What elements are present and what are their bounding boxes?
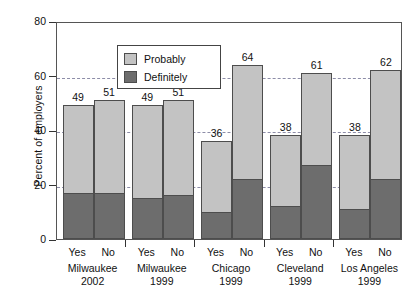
legend: Probably Definitely xyxy=(117,45,221,89)
bar-segment-definitely xyxy=(63,193,94,239)
bar-value-label: 61 xyxy=(301,59,332,71)
bar-group: 4951 xyxy=(63,23,125,239)
bar-series: 49514951366438613862 xyxy=(57,23,401,239)
bar-milwaukee-2002-yes xyxy=(63,105,94,239)
bar-segment-definitely xyxy=(339,209,370,239)
y-tick-label: 40 xyxy=(6,124,46,136)
bar-cleveland-1999-no xyxy=(301,73,332,239)
legend-label-definitely: Definitely xyxy=(144,71,187,83)
bar-value-label: 62 xyxy=(370,56,401,68)
bar-milwaukee-2002-no xyxy=(94,100,125,239)
bar-chart: Percent of employers 020406080 495149513… xyxy=(0,0,418,298)
y-tick-label: 0 xyxy=(6,233,46,245)
bar-chicago-1999-no xyxy=(232,65,263,239)
legend-item-definitely: Definitely xyxy=(124,69,214,85)
y-tick-mark xyxy=(49,131,56,132)
y-axis-title: Percent of employers xyxy=(32,36,44,236)
bar-segment-definitely xyxy=(94,193,125,239)
bar-segment-definitely xyxy=(370,179,401,239)
y-tick-mark xyxy=(49,240,56,241)
x-category-label: Los Angeles1999 xyxy=(324,246,414,287)
bar-segment-definitely xyxy=(132,198,163,239)
bar-segment-definitely xyxy=(163,195,194,239)
bar-milwaukee-1999-no xyxy=(163,100,194,239)
bar-los-angeles-1999-no xyxy=(370,70,401,239)
bar-value-label: 36 xyxy=(201,127,232,139)
y-tick-label: 60 xyxy=(6,70,46,82)
category-year: 1999 xyxy=(324,275,414,288)
bar-group: 3862 xyxy=(339,23,401,239)
bar-segment-definitely xyxy=(301,165,332,239)
legend-swatch-probably xyxy=(124,53,137,65)
plot-area: 49514951366438613862 Probably Definitely xyxy=(56,22,402,240)
bar-group: 3861 xyxy=(270,23,332,239)
bar-value-label: 49 xyxy=(132,91,163,103)
bar-segment-definitely xyxy=(232,179,263,239)
y-tick-mark xyxy=(49,185,56,186)
category-city: Los Angeles xyxy=(324,262,414,275)
bar-los-angeles-1999-yes xyxy=(339,135,370,239)
bar-value-label: 49 xyxy=(63,91,94,103)
y-tick-mark xyxy=(49,76,56,77)
y-tick-mark xyxy=(49,22,56,23)
bar-value-label: 38 xyxy=(270,121,301,133)
bar-value-label: 64 xyxy=(232,51,263,63)
bar-chicago-1999-yes xyxy=(201,141,232,239)
bar-milwaukee-1999-yes xyxy=(132,105,163,239)
bar-value-label: 38 xyxy=(339,121,370,133)
bar-cleveland-1999-yes xyxy=(270,135,301,239)
bar-segment-definitely xyxy=(270,206,301,239)
legend-label-probably: Probably xyxy=(144,53,185,65)
legend-item-probably: Probably xyxy=(124,51,214,67)
y-tick-label: 20 xyxy=(6,179,46,191)
legend-swatch-definitely xyxy=(124,71,137,83)
bar-segment-definitely xyxy=(201,212,232,239)
y-tick-label: 80 xyxy=(6,15,46,27)
